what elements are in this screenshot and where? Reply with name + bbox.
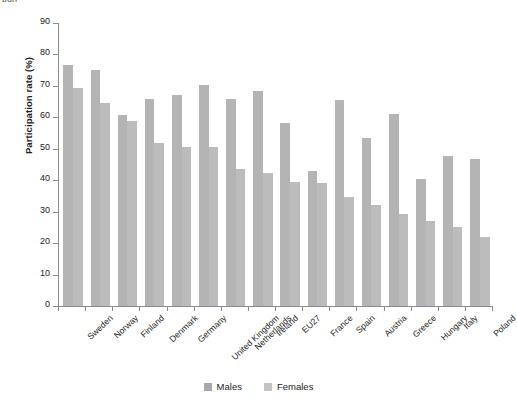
x-axis-label-finland: Finland	[139, 313, 166, 340]
x-axis-label-sweden: Sweden	[85, 313, 115, 341]
y-tick-label: 60	[40, 110, 50, 120]
x-tick-mark	[465, 306, 466, 311]
bar-males	[118, 115, 128, 306]
y-tick-label: 90	[40, 16, 50, 26]
x-tick-mark	[356, 306, 357, 311]
clipped-title-fragment: tion	[2, 0, 17, 4]
chart-legend: Males Females	[0, 381, 517, 392]
x-tick-mark	[302, 306, 303, 311]
x-tick-mark	[58, 306, 59, 311]
bar-females	[317, 183, 327, 306]
y-axis-title: Participation rate (%)	[23, 26, 34, 186]
bar-males	[280, 123, 290, 306]
x-axis-label-norway: Norway	[112, 313, 140, 340]
y-tick-label: 0	[45, 299, 50, 309]
x-tick-mark	[221, 306, 222, 311]
legend-label-females: Females	[277, 381, 313, 392]
x-tick-mark	[275, 306, 276, 311]
bar-females	[182, 147, 192, 306]
x-axis-label-denmark: Denmark	[168, 313, 200, 344]
plot-area: 0102030405060708090 SwedenNorwayFinlandD…	[58, 23, 492, 306]
legend-label-males: Males	[217, 381, 242, 392]
legend-swatch-icon-males	[204, 383, 212, 391]
bar-males	[362, 138, 372, 306]
bar-females	[127, 121, 137, 306]
bar-females	[236, 169, 246, 306]
y-tick-label: 70	[40, 79, 50, 89]
bar-females	[371, 205, 381, 306]
y-tick-mark	[53, 149, 58, 150]
bar-females	[426, 221, 436, 306]
x-axis-label-eu27: EU27	[300, 313, 323, 335]
x-tick-mark	[438, 306, 439, 311]
bar-females	[154, 143, 164, 306]
y-tick-label: 80	[40, 47, 50, 57]
x-axis-label-france: France	[328, 313, 354, 339]
y-tick-mark	[53, 275, 58, 276]
y-tick-label: 30	[40, 205, 50, 215]
x-tick-mark	[85, 306, 86, 311]
bar-males	[470, 159, 480, 306]
bar-females	[480, 237, 490, 306]
x-tick-mark	[167, 306, 168, 311]
bar-males	[145, 99, 155, 306]
bar-males	[199, 85, 209, 306]
bar-males	[335, 100, 345, 306]
x-axis-label-austria: Austria	[383, 313, 409, 339]
bar-females	[453, 227, 463, 306]
x-axis-label-germany: Germany	[195, 313, 228, 344]
y-axis-line	[58, 23, 59, 307]
legend-item-females[interactable]: Females	[264, 381, 313, 392]
x-tick-mark	[112, 306, 113, 311]
y-tick-label: 40	[40, 173, 50, 183]
bar-males	[91, 70, 101, 306]
bar-females	[344, 197, 354, 306]
bar-females	[399, 214, 409, 306]
y-tick-mark	[53, 243, 58, 244]
bar-males	[389, 114, 399, 306]
x-tick-mark	[194, 306, 195, 311]
y-tick-mark	[53, 212, 58, 213]
bar-females	[263, 173, 273, 306]
bar-males	[253, 91, 263, 306]
x-tick-mark	[384, 306, 385, 311]
bar-males	[416, 179, 426, 306]
bar-males	[63, 65, 73, 306]
y-tick-mark	[53, 180, 58, 181]
x-tick-mark	[492, 306, 493, 311]
y-tick-mark	[53, 86, 58, 87]
y-tick-mark	[53, 23, 58, 24]
bar-males	[226, 99, 236, 306]
legend-swatch-icon-females	[264, 383, 272, 391]
x-tick-mark	[329, 306, 330, 311]
bar-females	[290, 182, 300, 306]
x-axis-label-greece: Greece	[410, 313, 437, 340]
chart-figure: tion Participation rate (%) 010203040506…	[0, 0, 517, 406]
y-tick-mark	[53, 117, 58, 118]
y-tick-label: 50	[40, 142, 50, 152]
x-axis-label-spain: Spain	[354, 313, 377, 335]
bar-males	[172, 95, 182, 306]
bar-females	[209, 147, 219, 306]
legend-item-males[interactable]: Males	[204, 381, 242, 392]
x-tick-mark	[248, 306, 249, 311]
x-axis-label-poland: Poland	[491, 313, 517, 339]
x-tick-mark	[411, 306, 412, 311]
y-tick-label: 20	[40, 236, 50, 246]
x-tick-mark	[139, 306, 140, 311]
bar-females	[73, 88, 83, 306]
bar-males	[308, 171, 318, 306]
bar-females	[100, 103, 110, 306]
y-tick-label: 10	[40, 268, 50, 278]
y-tick-mark	[53, 54, 58, 55]
bar-males	[443, 156, 453, 306]
